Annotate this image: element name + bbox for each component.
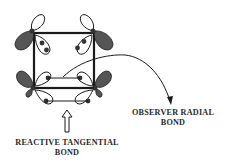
open-lobe	[80, 15, 93, 31]
reactive-tangential-bond-label: REACTIVE TANGENTIAL BOND	[2, 138, 132, 157]
filled-lobe	[15, 31, 34, 50]
inner-lobe	[77, 35, 92, 54]
observer-radial-bond-label: OBSERVER RADIAL BOND	[118, 108, 228, 127]
nucleus-dot	[91, 29, 96, 34]
electron-dot	[44, 48, 49, 53]
lower-inner-lobe	[75, 90, 93, 104]
reactive-label-line2: BOND	[2, 148, 132, 158]
filled-lobe	[94, 31, 113, 50]
filled-lobe-small	[26, 89, 32, 97]
reactive-label-line1: REACTIVE TANGENTIAL	[2, 138, 132, 148]
electron-dot	[82, 39, 87, 44]
electron-dot	[40, 41, 45, 46]
arrow-head-icon	[167, 96, 173, 105]
filled-lobe-small	[96, 89, 102, 97]
hollow-up-arrow-icon	[62, 110, 72, 132]
observer-label-line2: BOND	[118, 118, 228, 128]
observer-label-line1: OBSERVER RADIAL	[118, 108, 228, 118]
electron-dot	[75, 46, 80, 51]
nucleus-dot	[30, 29, 35, 34]
open-lobe	[31, 15, 44, 31]
corner-top-left	[15, 15, 50, 55]
filled-lobe	[17, 71, 33, 87]
filled-lobe	[95, 71, 111, 87]
